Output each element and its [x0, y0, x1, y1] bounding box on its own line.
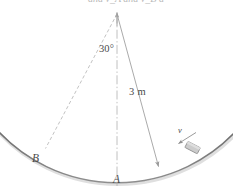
angle-label-30deg: 30°: [99, 44, 114, 55]
velocity-label-v: v: [178, 126, 182, 135]
dashed-radius-to-b: [46, 14, 118, 149]
block: [185, 141, 201, 153]
point-label-b: B: [32, 153, 39, 165]
figure-container: and v_A and v_B a: [0, 0, 233, 193]
radius-label-3m: 3 m: [129, 87, 146, 98]
point-label-a: A: [113, 174, 120, 186]
